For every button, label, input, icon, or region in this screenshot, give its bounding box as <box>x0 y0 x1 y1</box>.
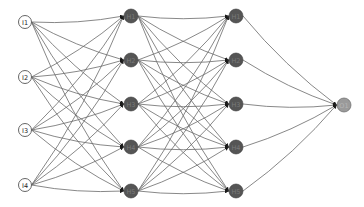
edge-H1_3-to-H2_3 <box>138 104 229 107</box>
layer-hidden-2: H1H2H3H4H5 <box>229 9 243 198</box>
edge-H1_4-to-H2_3 <box>138 104 229 147</box>
edge-H1_5-to-H2_1 <box>138 16 229 191</box>
edge-I1-to-H1_4 <box>32 22 124 147</box>
node-label: I2 <box>22 74 28 82</box>
edge-H1_2-to-H2_2 <box>138 60 229 63</box>
edge-I2-to-H1_3 <box>32 77 124 104</box>
edge-H1_4-to-H2_1 <box>138 16 229 147</box>
node-label: H3 <box>126 101 135 109</box>
edge-I3-to-H1_3 <box>32 104 124 130</box>
nodes-layer: I1I2I3I4H1H2H3H4H5H1H2H3H4H5O1 <box>19 9 352 198</box>
node-h2_3: H3 <box>229 97 243 111</box>
node-label: H3 <box>231 101 240 109</box>
node-i1: I1 <box>19 16 32 29</box>
edge-H1_1-to-H2_5 <box>138 16 229 191</box>
edge-I1-to-H1_1 <box>32 16 124 23</box>
edge-I3-to-H1_2 <box>32 60 124 130</box>
node-o1: O1 <box>337 98 351 112</box>
node-h2_4: H4 <box>229 140 243 154</box>
node-label: H4 <box>126 144 135 152</box>
layer-input: I1I2I3I4 <box>19 16 32 192</box>
edge-H2_4-to-O1 <box>243 105 337 147</box>
node-h1_2: H2 <box>124 53 138 67</box>
node-label: H5 <box>231 188 240 196</box>
edge-H1_4-to-H2_4 <box>138 147 229 150</box>
node-h1_3: H3 <box>124 97 138 111</box>
edge-H1_2-to-H2_5 <box>138 60 229 191</box>
edge-I3-to-H1_5 <box>32 130 124 191</box>
edge-I4-to-H1_2 <box>32 60 124 185</box>
edge-H1_3-to-H2_5 <box>138 104 229 191</box>
edge-H2_5-to-O1 <box>243 105 337 191</box>
node-h2_5: H5 <box>229 184 243 198</box>
edge-H1_3-to-H2_4 <box>138 104 229 147</box>
node-i3: I3 <box>19 124 32 137</box>
edge-I4-to-H1_5 <box>32 185 124 192</box>
node-h1_4: H4 <box>124 140 138 154</box>
layer-output: O1 <box>337 98 351 112</box>
node-h2_1: H1 <box>229 9 243 23</box>
edge-H1_3-to-H2_1 <box>138 16 229 104</box>
edge-H2_2-to-O1 <box>243 60 337 105</box>
edge-H1_5-to-H2_5 <box>138 191 229 194</box>
node-label: H4 <box>231 144 240 152</box>
node-label: H2 <box>231 57 240 65</box>
edge-H1_3-to-H2_2 <box>138 60 229 104</box>
edge-H1_1-to-H2_2 <box>138 16 229 60</box>
edge-I2-to-H1_2 <box>32 60 124 77</box>
edge-H1_5-to-H2_4 <box>138 147 229 191</box>
edge-H2_1-to-O1 <box>243 16 337 105</box>
edges-layer <box>32 16 337 194</box>
edge-H2_3-to-O1 <box>243 104 337 107</box>
edge-H1_5-to-H2_2 <box>138 60 229 191</box>
node-label: O1 <box>339 102 348 110</box>
node-label: H1 <box>126 13 135 21</box>
node-h1_5: H5 <box>124 184 138 198</box>
edge-H1_2-to-H2_3 <box>138 60 229 104</box>
node-i2: I2 <box>19 71 32 84</box>
node-label: H2 <box>126 57 135 65</box>
edge-H1_1-to-H2_4 <box>138 16 229 147</box>
node-label: I4 <box>22 182 28 190</box>
node-i4: I4 <box>19 179 32 192</box>
node-label: I1 <box>22 19 28 27</box>
edge-H1_2-to-H2_1 <box>138 16 229 60</box>
node-label: H1 <box>231 13 240 21</box>
edge-H1_4-to-H2_5 <box>138 147 229 191</box>
node-h2_2: H2 <box>229 53 243 67</box>
layer-hidden-1: H1H2H3H4H5 <box>124 9 138 198</box>
edge-H1_1-to-H2_3 <box>138 16 229 104</box>
neural-network-diagram: I1I2I3I4H1H2H3H4H5H1H2H3H4H5O1 <box>0 0 364 207</box>
edge-H1_1-to-H2_1 <box>138 16 229 19</box>
edge-I4-to-H1_1 <box>32 16 124 185</box>
node-label: I3 <box>22 127 28 135</box>
node-h1_1: H1 <box>124 9 138 23</box>
edge-I4-to-H1_4 <box>32 147 124 185</box>
edge-H1_5-to-H2_3 <box>138 104 229 191</box>
node-label: H5 <box>126 188 135 196</box>
